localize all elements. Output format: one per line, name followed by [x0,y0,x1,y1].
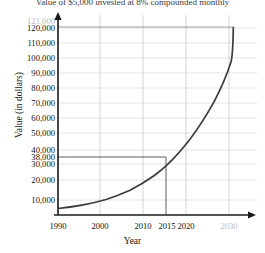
chart-container: Value of $5,000 invested at 8% compounde… [0,0,265,253]
chart-plot-area [0,0,265,253]
y-axis-line [54,12,61,215]
vertical-gridlines [58,15,229,215]
x-axis-line [54,211,256,218]
